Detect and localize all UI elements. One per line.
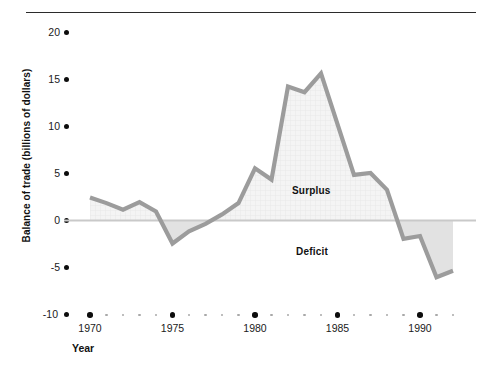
x-tick-dot-minor-1991 <box>435 314 437 316</box>
x-tick-label-1980: 1980 <box>230 322 280 334</box>
x-tick-label-1985: 1985 <box>313 322 363 334</box>
x-tick-dot-1980 <box>252 312 258 318</box>
x-tick-dot-minor-1973 <box>138 314 140 316</box>
x-tick-dot-1975 <box>170 312 176 318</box>
x-tick-label-1990: 1990 <box>395 322 445 334</box>
x-axis-title: Year <box>72 342 94 354</box>
x-tick-dot-1990 <box>417 312 423 318</box>
x-tick-dot-minor-1987 <box>369 314 371 316</box>
x-tick-label-1970: 1970 <box>65 322 115 334</box>
x-tick-dot-minor-1972 <box>122 314 124 316</box>
x-tick-dot-minor-1992 <box>452 314 454 316</box>
x-tick-dot-1970 <box>87 312 93 318</box>
x-tick-dot-minor-1979 <box>237 314 239 316</box>
balance-of-trade-line <box>90 73 453 277</box>
x-tick-dot-minor-1989 <box>402 314 404 316</box>
deficit-label: Deficit <box>296 246 328 257</box>
x-tick-dot-minor-1982 <box>287 314 289 316</box>
x-tick-dot-1985 <box>335 312 341 318</box>
balance-of-trade-chart: Balance of trade (billions of dollars) 2… <box>0 0 486 369</box>
x-tick-dot-minor-1971 <box>105 314 107 316</box>
x-tick-dot-minor-1981 <box>270 314 272 316</box>
x-tick-dot-minor-1978 <box>221 314 223 316</box>
surplus-label: Surplus <box>292 185 331 196</box>
x-tick-dot-minor-1976 <box>188 314 190 316</box>
x-tick-dot-minor-1977 <box>204 314 206 316</box>
x-tick-label-1975: 1975 <box>148 322 198 334</box>
x-tick-dot-minor-1984 <box>320 314 322 316</box>
x-tick-dot-minor-1986 <box>353 314 355 316</box>
plot-area <box>0 0 486 369</box>
x-tick-dot-minor-1974 <box>155 314 157 316</box>
x-tick-dot-minor-1988 <box>386 314 388 316</box>
x-tick-dot-minor-1983 <box>303 314 305 316</box>
